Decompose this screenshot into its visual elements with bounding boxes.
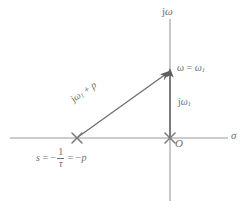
diagram-canvas xyxy=(0,0,247,210)
real-axis-label: σ xyxy=(231,130,236,141)
pole-equation-minus-1: − xyxy=(51,152,57,163)
origin-label: O xyxy=(175,138,183,149)
imaginary-axis-label-omega: ω xyxy=(165,5,173,17)
pole-equation-fraction: 1τ xyxy=(57,147,64,169)
omega-eq-rhs-subscript: 1 xyxy=(202,66,205,73)
pole-equation-p: p xyxy=(81,152,86,163)
omega-eq-operator: = xyxy=(184,62,195,73)
pole-equation-denominator: τ xyxy=(57,158,64,170)
pole-equation-equals-1: = xyxy=(40,152,51,163)
pole-equation-label: s = −1τ = −p xyxy=(36,148,86,170)
pole-equation-numerator: 1 xyxy=(57,147,64,158)
vertical-vector-label-omega: ω xyxy=(181,96,188,107)
imaginary-axis-label: jω xyxy=(162,6,173,17)
pole-equation-equals-2: = xyxy=(65,152,76,163)
omega-eq-lhs: ω xyxy=(177,62,184,73)
vertical-vector-label-subscript: 1 xyxy=(188,100,191,107)
evaluation-point-label: ω = ω1 xyxy=(177,63,205,74)
omega-eq-rhs-base: ω xyxy=(195,62,202,73)
vertical-vector-label: jω1 xyxy=(178,97,191,108)
s-plane-diagram-figure: jω σ ω = ω1 jω1 O jω1 + p s = −1τ = −p xyxy=(0,0,247,210)
